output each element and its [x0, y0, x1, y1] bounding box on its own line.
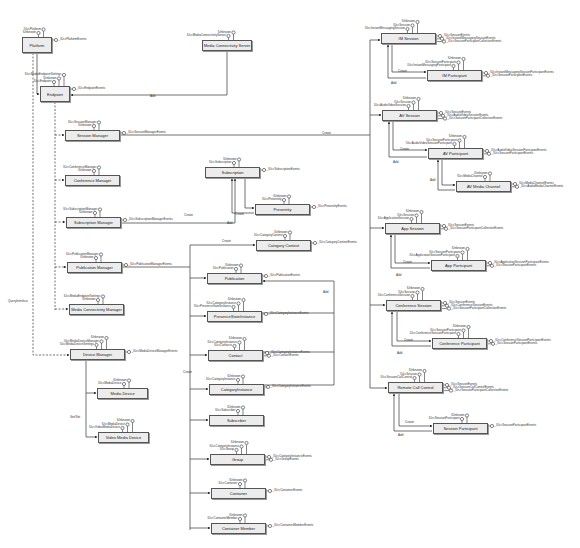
interface-lollipop-icon [407, 104, 410, 107]
interface-lollipop-icon [234, 267, 237, 270]
event-lollipop-icon [262, 168, 265, 171]
event-lollipop-icon [264, 312, 267, 315]
box-media-conn-server: Media Connectivity Server [202, 40, 252, 51]
interface-label: IUccSessionParticipant [429, 417, 460, 421]
interface-label: IUnknown [117, 419, 130, 423]
event-lollipop-icon [123, 218, 126, 221]
event-interface-label: _IUccSessionParticipantCollectionEvents [447, 40, 502, 44]
box-device-manager: Device Manager [70, 349, 125, 360]
interface-lollipop-icon [245, 441, 248, 444]
interface-label: IUnknown [79, 211, 92, 215]
interface-lollipop-icon [456, 254, 459, 257]
interface-lollipop-icon [466, 247, 469, 250]
interface-lollipop-icon [241, 375, 244, 378]
box-conference-manager: Conference Manager [65, 175, 120, 186]
interface-lollipop-icon [127, 379, 130, 382]
interface-lollipop-icon [233, 344, 236, 347]
interface-label: IUccSessionParticipant [425, 61, 456, 65]
interface-lollipop-icon [282, 198, 285, 201]
interface-label: IUccGroup [220, 448, 234, 452]
box-subscriber: Subscriber [209, 415, 264, 426]
interface-lollipop-icon [488, 172, 491, 175]
interface-label: IUnknown [80, 256, 93, 260]
interface-lollipop-icon [239, 264, 242, 267]
interface-lollipop-icon [411, 24, 414, 27]
event-lollipop-icon [127, 350, 130, 353]
box-im-session: IM Session [381, 33, 436, 44]
edge-label: Add [227, 222, 232, 226]
event-lollipop-icon [312, 205, 315, 208]
event-interface-label: _IUccContainerMemberEvents [273, 524, 314, 528]
event-interface-label: _IUccSessionParticipantEvents [495, 264, 537, 268]
interface-label: IUccMediaConnectivityServer [187, 34, 226, 38]
interface-label: IUccEndpoint [34, 80, 52, 84]
event-interface-label: _IUccSessionParticipantEvents [492, 152, 534, 156]
interface-label: IUccAudioVideoSessionParticipant [406, 142, 452, 146]
box-publication: Publication [207, 273, 262, 284]
interface-label: IUnknown [225, 264, 238, 268]
event-interface-label: _IUccPublicationManagerEvents [129, 263, 172, 267]
interface-label: IUccSubscription [209, 161, 232, 165]
interface-lollipop-icon [99, 253, 102, 256]
event-interface-label: _IUccPlatformEvents [59, 38, 87, 42]
interface-lollipop-icon [94, 256, 97, 259]
event-interface-label: _IUccContactEvents [272, 354, 299, 358]
box-session-manager: Session Manager [65, 130, 120, 141]
interface-label: IUnknown [448, 57, 461, 61]
interface-lollipop-icon [101, 295, 104, 298]
interface-label: IUnknown [407, 287, 420, 291]
interface-lollipop-icon [243, 479, 246, 482]
interface-lollipop-icon [232, 305, 235, 308]
event-interface-label: _IUccSessionParticipantCollectionEvents [449, 227, 504, 231]
box-category-instance: CategoryInstance [209, 384, 264, 395]
interface-label: IUccMediaEndpointSettings [25, 73, 62, 77]
interface-label: IUccMediaEndpointSettings [64, 295, 101, 299]
event-interface-label: _IUccGroupEvents [274, 458, 299, 462]
interface-label: IUccPresentity [262, 198, 281, 202]
interface-label: IUccCategoryInstance [207, 341, 237, 345]
interface-label: IUnknown [43, 77, 56, 81]
box-conference-participant: Conference Participant [432, 338, 487, 349]
box-publication-manager: Publication Manager [67, 262, 122, 273]
interface-label: IUccSession [398, 291, 415, 295]
interface-label: IUnknown [113, 379, 126, 383]
interface-label: IUnknown [78, 169, 91, 173]
interface-label: IUccConferenceSession [378, 294, 410, 298]
box-av-participant: AV Participant [428, 148, 483, 159]
interface-lollipop-icon [242, 298, 245, 301]
interface-lollipop-icon [237, 158, 240, 161]
interface-label: IUnknown [229, 479, 242, 483]
box-platform: Platform [22, 37, 52, 53]
interface-lollipop-icon [235, 448, 238, 451]
event-interface-label: _IUccSubscriptionManagerEvents [128, 218, 173, 222]
interface-label: IUccSubscriptionManager [63, 208, 97, 212]
box-presentity: Presentity [255, 204, 310, 215]
interface-lollipop-icon [95, 343, 98, 346]
interface-lollipop-icon [463, 135, 466, 138]
interface-lollipop-icon [243, 514, 246, 517]
interface-lollipop-icon [236, 409, 239, 412]
interface-lollipop-icon [131, 419, 134, 422]
event-lollipop-icon [264, 274, 267, 277]
interface-label: IUccApplicationSessionParticipant [409, 254, 455, 258]
box-im-participant: IM Participant [427, 70, 482, 81]
interface-label: IUccSession [393, 24, 410, 28]
interface-lollipop-icon [42, 28, 45, 31]
interface-label: IUccVideoMediaDevice [89, 426, 120, 430]
interface-lollipop-icon [62, 73, 65, 76]
interface-lollipop-icon [243, 337, 246, 340]
interface-label: IUccPublication [213, 267, 234, 271]
interface-label: IUccContainerMember [207, 517, 237, 521]
event-interface-label: _IUccSessionManagerEvents [127, 131, 166, 135]
interface-label: IUnknown [218, 31, 231, 35]
interface-label: IUnknown [227, 406, 240, 410]
interface-lollipop-icon [417, 97, 420, 100]
interface-lollipop-icon [421, 287, 424, 290]
interface-lollipop-icon [452, 64, 455, 67]
interface-lollipop-icon [238, 517, 241, 520]
interface-lollipop-icon [238, 482, 241, 485]
interface-lollipop-icon [105, 336, 108, 339]
interface-lollipop-icon [57, 77, 60, 80]
interface-label: IUnknown [23, 31, 36, 35]
event-interface-label: _IUccSessionParticipantEvents [496, 342, 538, 346]
